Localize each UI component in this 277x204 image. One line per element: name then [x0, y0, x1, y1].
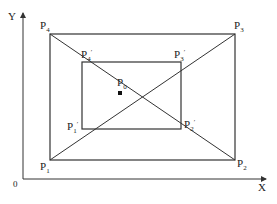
- y-axis-label: Y: [8, 10, 16, 22]
- perspective-rectangles-diagram: Y X 0 P4 P3 P1 P2 P4′ P3′ P1′ P2′ P0: [0, 0, 277, 204]
- origin-label: 0: [13, 179, 18, 189]
- center-point-p0: [118, 91, 122, 95]
- label-p1: P1: [40, 160, 50, 175]
- label-p4-prime: P4′: [81, 48, 93, 63]
- label-p4: P4: [40, 19, 50, 34]
- x-axis-label: X: [258, 181, 266, 193]
- label-p0: P0: [117, 76, 127, 91]
- inner-rectangle: [82, 62, 181, 129]
- label-p2: P2: [237, 157, 247, 172]
- label-p3-prime: P3′: [174, 48, 186, 63]
- label-p3: P3: [234, 19, 244, 34]
- label-p2-prime: P2′: [184, 118, 196, 133]
- label-p1-prime: P1′: [67, 120, 79, 135]
